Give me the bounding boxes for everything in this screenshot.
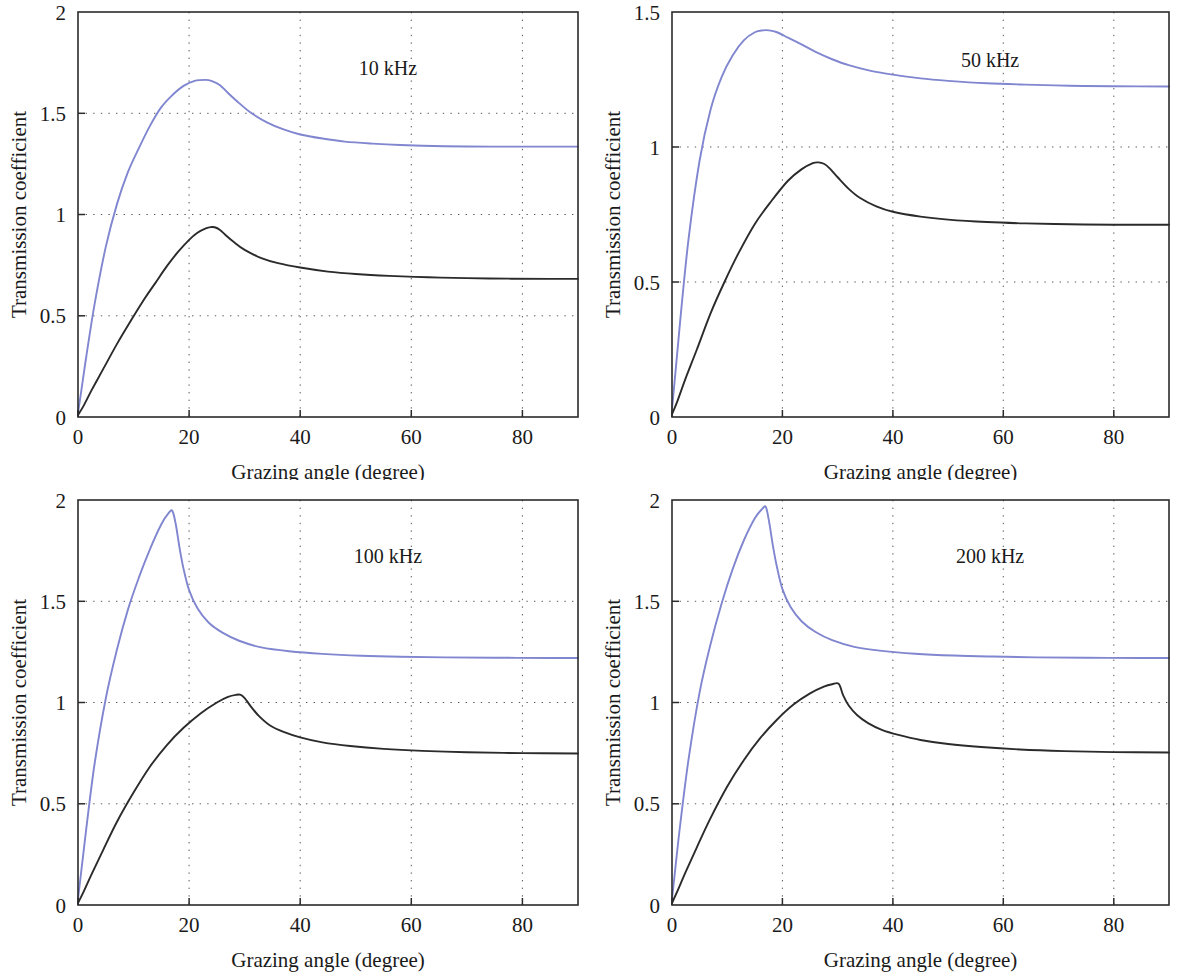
x-tick-label: 80 [1103,913,1124,937]
plot-frame [78,12,578,417]
series-line-black [672,162,1169,414]
y-tick-label: 2 [56,489,67,513]
y-tick-label: 1 [650,136,661,160]
figure-panel-grid: 02040608000.511.52Grazing angle (degree)… [0,0,1189,972]
panel-10khz: 02040608000.511.52Grazing angle (degree)… [0,0,600,480]
x-tick-label: 80 [512,913,533,937]
axis-ticks: 02040608000.511.52 [634,489,1125,938]
x-tick-label: 40 [882,425,903,449]
y-axis-title: Transmission coefficient [601,111,625,318]
x-axis-title: Grazing angle (degree) [231,948,425,972]
y-tick-label: 0.5 [40,792,66,816]
y-tick-label: 0 [56,894,67,918]
x-tick-label: 40 [290,913,311,937]
series-line-blue [672,30,1169,409]
axis-ticks: 02040608000.511.52 [40,489,533,938]
series-line-black [672,683,1169,903]
x-tick-label: 60 [401,913,422,937]
chart-svg-50khz: 02040608000.511.5Grazing angle (degree)T… [600,0,1189,480]
y-axis-title: Transmission coefficient [601,599,625,806]
gridlines [672,500,1169,905]
series-line-blue [78,80,578,413]
x-tick-label: 20 [179,913,200,937]
y-tick-label: 1.5 [40,590,66,614]
x-tick-label: 20 [772,913,793,937]
y-tick-label: 0 [650,894,661,918]
frequency-label: 50 kHz [961,49,1019,71]
y-tick-label: 0 [650,406,661,430]
x-tick-label: 80 [1103,425,1124,449]
frequency-label: 10 kHz [359,57,417,79]
series-line-black [78,227,578,415]
series-line-blue [78,510,578,899]
y-tick-label: 1 [650,691,661,715]
x-tick-label: 40 [290,425,311,449]
axis-ticks: 02040608000.511.52 [40,1,533,450]
y-tick-label: 0.5 [40,304,66,328]
gridlines [78,12,578,417]
plot-frame [78,500,578,905]
series-line-blue [672,506,1169,899]
x-tick-label: 60 [993,425,1014,449]
y-axis-title: Transmission coefficient [7,111,31,318]
x-axis-title: Grazing angle (degree) [824,948,1018,972]
series-group [672,30,1169,414]
gridlines [78,500,578,905]
y-tick-label: 1.5 [634,1,660,25]
gridlines [672,12,1169,417]
y-tick-label: 2 [650,489,661,513]
panel-50khz: 02040608000.511.5Grazing angle (degree)T… [600,0,1189,480]
plot-frame [672,12,1169,417]
plot-frame [672,500,1169,905]
chart-svg-10khz: 02040608000.511.52Grazing angle (degree)… [0,0,600,480]
x-tick-label: 0 [73,425,84,449]
x-axis-title: Grazing angle (degree) [231,460,425,480]
y-axis-title: Transmission coefficient [7,599,31,806]
series-group [78,80,578,415]
y-tick-label: 1.5 [40,102,66,126]
x-tick-label: 20 [772,425,793,449]
frequency-label: 100 kHz [354,545,422,567]
x-tick-label: 60 [401,425,422,449]
series-line-black [78,694,578,903]
y-tick-label: 1 [56,203,67,227]
y-tick-label: 0 [56,406,67,430]
chart-svg-100khz: 02040608000.511.52Grazing angle (degree)… [0,480,600,972]
panel-100khz: 02040608000.511.52Grazing angle (degree)… [0,480,600,972]
x-tick-label: 80 [512,425,533,449]
panel-200khz: 02040608000.511.52Grazing angle (degree)… [600,480,1189,972]
y-tick-label: 0.5 [634,271,660,295]
x-tick-label: 60 [993,913,1014,937]
y-tick-label: 1 [56,691,67,715]
x-tick-label: 20 [179,425,200,449]
x-tick-label: 0 [667,913,678,937]
x-tick-label: 40 [882,913,903,937]
y-tick-label: 0.5 [634,792,660,816]
x-tick-label: 0 [73,913,84,937]
y-tick-label: 2 [56,1,67,25]
frequency-label: 200 kHz [956,545,1024,567]
chart-svg-200khz: 02040608000.511.52Grazing angle (degree)… [600,480,1189,972]
y-tick-label: 1.5 [634,590,660,614]
x-axis-title: Grazing angle (degree) [824,460,1018,480]
series-group [78,510,578,903]
x-tick-label: 0 [667,425,678,449]
series-group [672,506,1169,903]
